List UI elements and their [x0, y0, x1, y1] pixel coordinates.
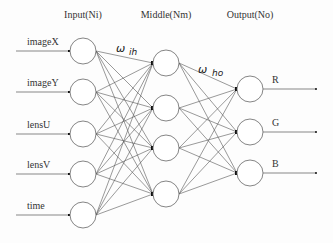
- input-label-lensU: lensU: [27, 119, 51, 130]
- input-label-imageX: imageX: [27, 36, 59, 47]
- connection-line: [96, 108, 153, 215]
- output-dot-icon: [315, 172, 317, 174]
- connection-line: [179, 63, 237, 89]
- connection-line: [179, 108, 237, 132]
- middle-node-2: [153, 95, 179, 121]
- connection-line: [179, 148, 237, 173]
- connection-line: [179, 132, 237, 148]
- connection-line: [96, 174, 153, 194]
- neural-network-diagram: Input(Ni)Middle(Nm)Output(No)imageXimage…: [0, 0, 333, 243]
- output-node-1: [237, 76, 263, 102]
- output-label-R: R: [272, 74, 279, 85]
- input-node-4: [70, 161, 96, 187]
- connection-line: [96, 51, 153, 194]
- connection-line: [179, 173, 237, 194]
- network-canvas: Input(Ni)Middle(Nm)Output(No)imageXimage…: [0, 0, 333, 243]
- layer-title-input: Input(Ni): [64, 9, 102, 21]
- weight-subscript-ih: ih: [129, 47, 138, 57]
- layer-title-output: Output(No): [227, 9, 274, 21]
- input-node-5: [70, 202, 96, 228]
- output-label-B: B: [272, 158, 279, 169]
- output-node-3: [237, 160, 263, 186]
- connection-line: [96, 63, 153, 215]
- output-dot-icon: [315, 131, 317, 133]
- output-dot-icon: [315, 88, 317, 90]
- input-label-imageY: imageY: [27, 77, 59, 88]
- input-label-time: time: [27, 200, 45, 211]
- layer-title-middle: Middle(Nm): [141, 9, 192, 21]
- middle-node-1: [153, 50, 179, 76]
- connection-line: [96, 63, 153, 134]
- output-label-G: G: [272, 117, 279, 128]
- connection-line: [96, 63, 153, 92]
- input-label-lensV: lensV: [27, 159, 51, 170]
- connection-line: [96, 108, 153, 134]
- weight-label-ih: ω: [116, 42, 125, 55]
- middle-node-3: [153, 135, 179, 161]
- output-node-2: [237, 119, 263, 145]
- middle-node-4: [153, 181, 179, 207]
- connection-line: [96, 148, 153, 215]
- input-node-3: [70, 121, 96, 147]
- input-node-1: [70, 38, 96, 64]
- input-node-2: [70, 79, 96, 105]
- weight-subscript-ho: ho: [212, 68, 224, 78]
- weight-label-ho: ω: [198, 63, 207, 76]
